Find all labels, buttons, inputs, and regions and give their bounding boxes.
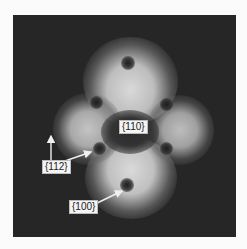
label-100: {100} [69, 200, 98, 214]
label-110: {110} [119, 120, 148, 134]
label-112: {112} [42, 160, 71, 174]
